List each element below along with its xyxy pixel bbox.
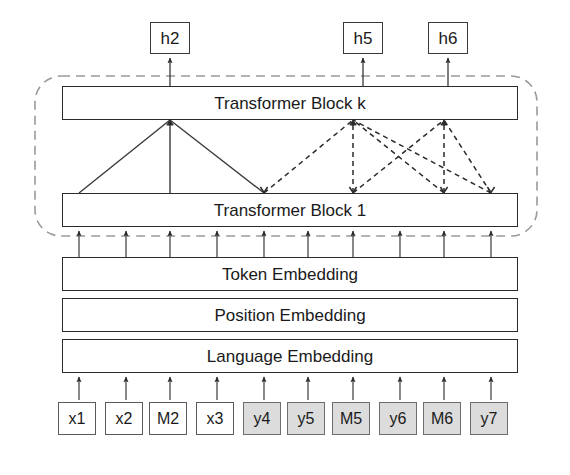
input-token-m2[interactable]: M2 xyxy=(149,402,187,435)
input-token-label: y7 xyxy=(481,411,498,427)
transformer-block-k-label: Transformer Block k xyxy=(214,95,365,112)
output-node-h5-label: h5 xyxy=(354,30,373,47)
input-token-label: M6 xyxy=(431,411,453,427)
token-to-embedding-arrows xyxy=(79,377,491,400)
input-token-label: M5 xyxy=(340,411,362,427)
input-token-x2[interactable]: x2 xyxy=(105,402,143,435)
output-node-h6-label: h6 xyxy=(439,30,458,47)
input-token-label: M2 xyxy=(157,411,179,427)
input-token-label: x3 xyxy=(207,411,224,427)
token-embedding-layer[interactable]: Token Embedding xyxy=(62,257,518,291)
position-embedding-label: Position Embedding xyxy=(214,307,365,324)
language-embedding-label: Language Embedding xyxy=(207,348,373,365)
embedding-to-block-arrows xyxy=(79,231,491,257)
diagram-canvas: h2 h5 h6 Transformer Block k Transformer… xyxy=(0,0,570,475)
input-token-label: y6 xyxy=(390,411,407,427)
output-node-h6[interactable]: h6 xyxy=(428,22,468,54)
input-token-y7[interactable]: y7 xyxy=(470,402,508,435)
input-token-x3[interactable]: x3 xyxy=(196,402,234,435)
input-token-y6[interactable]: y6 xyxy=(379,402,417,435)
language-embedding-layer[interactable]: Language Embedding xyxy=(62,339,518,373)
transformer-block-1[interactable]: Transformer Block 1 xyxy=(62,193,518,227)
transformer-block-k[interactable]: Transformer Block k xyxy=(62,86,518,120)
token-embedding-label: Token Embedding xyxy=(222,266,358,283)
output-node-h2-label: h2 xyxy=(161,30,180,47)
solid-attention-edges xyxy=(79,120,264,193)
output-node-h2[interactable]: h2 xyxy=(150,22,190,54)
dashed-attention-edges xyxy=(167,120,495,193)
input-token-y5[interactable]: y5 xyxy=(287,402,325,435)
output-node-h5[interactable]: h5 xyxy=(343,22,383,54)
transformer-block-1-label: Transformer Block 1 xyxy=(214,202,366,219)
input-token-label: x2 xyxy=(116,411,133,427)
input-token-y4[interactable]: y4 xyxy=(243,402,281,435)
input-token-m6[interactable]: M6 xyxy=(423,402,461,435)
input-token-m5[interactable]: M5 xyxy=(332,402,370,435)
input-token-label: x1 xyxy=(69,411,86,427)
output-arrows xyxy=(170,58,448,86)
input-token-label: y5 xyxy=(298,411,315,427)
input-token-label: y4 xyxy=(254,411,271,427)
position-embedding-layer[interactable]: Position Embedding xyxy=(62,298,518,332)
input-token-x1[interactable]: x1 xyxy=(58,402,96,435)
